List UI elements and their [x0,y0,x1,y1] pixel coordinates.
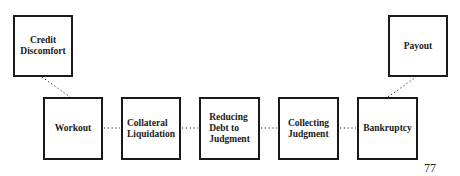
node-label: Bankruptcy [363,123,412,134]
node-label: Payout [404,41,433,52]
node-collateral-liquidation: Collateral Liquidation [121,97,181,160]
node-collecting-judgment: Collecting Judgment [278,97,339,160]
node-label: Reducing Debt to Judgment [209,112,250,145]
edge-credit-to-workout [42,77,70,97]
node-credit-discomfort: Credit Discomfort [13,15,73,77]
node-payout: Payout [388,15,448,77]
node-label: Collateral Liquidation [127,118,175,140]
node-label: Collecting Judgment [288,118,329,140]
node-label: Credit Discomfort [20,35,65,57]
node-label: Workout [55,123,91,134]
edge-bankruptcy-to-payout [388,77,416,97]
page-number: 77 [424,161,436,176]
node-reducing-debt-to-judgment: Reducing Debt to Judgment [199,97,260,160]
node-bankruptcy: Bankruptcy [357,97,418,160]
node-workout: Workout [43,97,103,160]
